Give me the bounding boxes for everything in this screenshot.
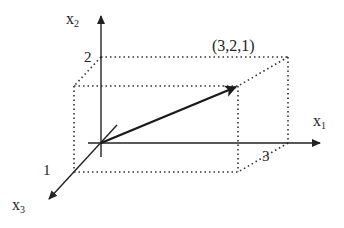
x3-axis-label: x3 [12,197,25,215]
x1-axis-label: x1 [313,113,326,131]
bounding-box [74,57,288,172]
vector-arrow [101,87,236,143]
x2-axis-label: x2 [66,11,79,29]
diagram-canvas [0,0,344,228]
x1-tick-label: 3 [262,149,270,164]
x3-tick-label: 1 [43,163,51,178]
x2-tick-label: 2 [84,50,92,65]
x3-axis [49,125,117,199]
point-label: (3,2,1) [212,38,255,54]
